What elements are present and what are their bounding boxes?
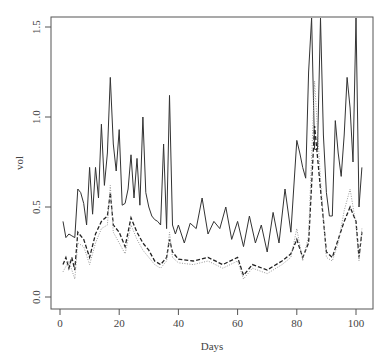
y-tick-label: 0.5	[30, 200, 42, 214]
x-tick-label: 40	[173, 317, 185, 329]
series-dotted	[63, 81, 362, 279]
x-tick-label: 20	[114, 317, 126, 329]
x-tick-label: 100	[348, 317, 365, 329]
x-axis-label: Days	[201, 340, 224, 352]
line-chart: 0.00.51.01.5 020406080100 Days vol	[0, 0, 390, 361]
series-solid	[63, 18, 362, 252]
y-tick-label: 0.0	[30, 290, 42, 304]
x-tick-label: 80	[291, 317, 303, 329]
series-lines	[63, 18, 362, 279]
y-axis-label: vol	[13, 156, 25, 170]
x-axis: 020406080100	[57, 309, 365, 329]
y-tick-label: 1.5	[30, 20, 42, 34]
y-tick-label: 1.0	[30, 110, 42, 124]
y-axis: 0.00.51.01.5	[30, 20, 51, 304]
x-tick-label: 60	[232, 317, 244, 329]
x-tick-label: 0	[57, 317, 63, 329]
